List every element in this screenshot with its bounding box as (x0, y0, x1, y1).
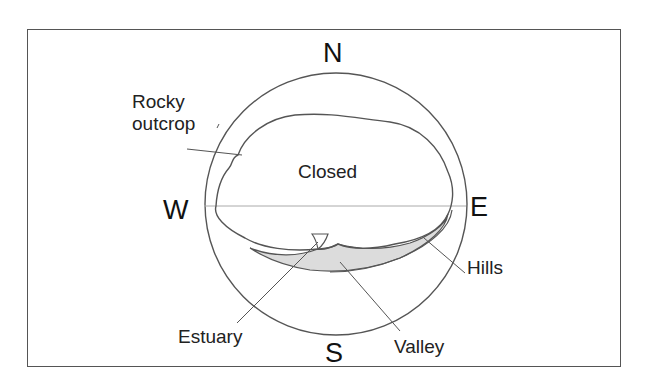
hills-leader (424, 238, 465, 273)
rocky-outcrop-leader (217, 124, 219, 128)
west-label: W (163, 197, 188, 224)
closed-label: Closed (298, 162, 357, 181)
estuary-label: Estuary (178, 327, 242, 346)
east-label: E (470, 194, 488, 221)
hills-label: Hills (467, 258, 503, 277)
valley-label: Valley (394, 337, 444, 356)
rocky-outcrop-label-line1: Rocky (132, 92, 185, 111)
estuary-notch (312, 234, 328, 249)
north-label: N (323, 40, 343, 67)
valley-region (250, 214, 448, 271)
sky-circle (205, 73, 467, 335)
south-label: S (325, 340, 343, 367)
closed-horizon-outline (216, 114, 453, 250)
rocky-outcrop-label-line2: outcrop (132, 114, 195, 133)
valley-leader (340, 262, 400, 331)
